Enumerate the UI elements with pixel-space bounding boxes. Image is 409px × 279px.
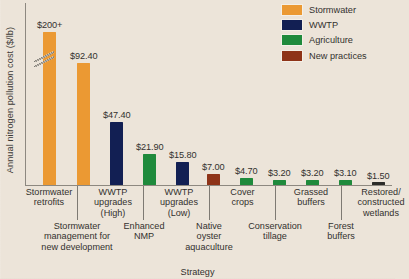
legend-item-agriculture[interactable]: Agriculture bbox=[281, 34, 367, 46]
bar-rect bbox=[176, 162, 189, 185]
legend-item-label: Agriculture bbox=[309, 35, 353, 45]
legend-item-label: Stormwater bbox=[309, 5, 356, 15]
legend-swatch-icon bbox=[281, 19, 303, 31]
bar-grassed-buffers[interactable]: $3.20 bbox=[301, 168, 324, 185]
category-label-forest-buffers: Forest buffers bbox=[317, 221, 365, 242]
legend-swatch-icon bbox=[281, 34, 303, 46]
bar-value-label: $7.00 bbox=[202, 162, 225, 172]
y-axis-title: Annual nitrogen pollution cost ($/lb) bbox=[5, 15, 15, 185]
legend-swatch-icon bbox=[281, 4, 303, 16]
bar-value-label: $1.50 bbox=[367, 171, 390, 181]
tick-stem bbox=[209, 186, 210, 220]
bar-value-label: $92.40 bbox=[70, 51, 98, 61]
bar-cover-crops[interactable]: $4.70 bbox=[235, 166, 258, 185]
bar-wwtp-upgrades-low[interactable]: $15.80 bbox=[169, 150, 197, 185]
category-label-stormwater-new-development: Stormwater management for new developmen… bbox=[30, 221, 124, 252]
bar-rect bbox=[273, 180, 286, 185]
x-axis-category-labels: Stormwater retrofits WWTP upgrades (High… bbox=[25, 186, 392, 279]
bar-rect bbox=[306, 180, 319, 185]
bar-enhanced-nmp[interactable]: $21.90 bbox=[136, 142, 164, 185]
category-label-wwtp-upgrades-high: WWTP upgrades (High) bbox=[77, 187, 149, 218]
bar-rect bbox=[110, 122, 123, 185]
category-label-enhanced-nmp: Enhanced NMP bbox=[115, 221, 173, 242]
category-label-cover-crops: Cover crops bbox=[215, 187, 270, 208]
bar-value-label: $15.80 bbox=[169, 150, 197, 160]
bar-wwtp-upgrades-high[interactable]: $47.40 bbox=[103, 110, 131, 185]
category-label-grassed-buffers: Grassed buffers bbox=[281, 187, 341, 208]
bar-restored-constructed-wetlands[interactable]: $1.50 bbox=[367, 171, 390, 185]
legend: Stormwater WWTP Agriculture New practice… bbox=[281, 4, 367, 62]
bar-value-label: $21.90 bbox=[136, 142, 164, 152]
bar-rect bbox=[240, 178, 253, 185]
bar-stormwater-retrofits[interactable]: $200+ bbox=[37, 20, 62, 185]
tick-stem bbox=[77, 186, 78, 220]
bar-native-oyster-aquaculture[interactable]: $7.00 bbox=[202, 162, 225, 185]
legend-item-wwtp[interactable]: WWTP bbox=[281, 19, 367, 31]
category-label-conservation-tillage: Conservation tillage bbox=[240, 221, 310, 242]
legend-swatch-icon bbox=[281, 50, 303, 62]
category-label-restored-wetlands: Restored/ constructed wetlands bbox=[345, 187, 409, 218]
bar-rect bbox=[143, 154, 156, 185]
bar-conservation-tillage[interactable]: $3.20 bbox=[268, 168, 291, 185]
legend-item-label: WWTP bbox=[309, 20, 338, 30]
bar-forest-buffers[interactable]: $3.10 bbox=[334, 168, 357, 185]
x-axis-title: Strategy bbox=[0, 267, 395, 277]
bar-value-label: $3.20 bbox=[301, 168, 324, 178]
bar-value-label: $47.40 bbox=[103, 110, 131, 120]
legend-item-label: New practices bbox=[309, 51, 367, 61]
bar-rect bbox=[77, 63, 90, 185]
y-axis-line bbox=[25, 3, 26, 186]
bar-value-label: $3.20 bbox=[268, 168, 291, 178]
category-label-wwtp-upgrades-low: WWTP upgrades (Low) bbox=[143, 187, 215, 218]
bar-rect bbox=[372, 182, 385, 185]
tick-stem bbox=[275, 186, 276, 220]
bar-rect bbox=[43, 32, 56, 185]
bar-rect bbox=[207, 174, 220, 185]
legend-item-stormwater[interactable]: Stormwater bbox=[281, 4, 367, 16]
bar-rect bbox=[339, 180, 352, 185]
bar-value-label: $3.10 bbox=[334, 168, 357, 178]
bar-value-label: $4.70 bbox=[235, 166, 258, 176]
tick-stem bbox=[341, 186, 342, 220]
category-label-native-oyster-aquaculture: Native oyster aquaculture bbox=[182, 221, 236, 252]
tick-stem bbox=[143, 186, 144, 220]
bar-value-label: $200+ bbox=[37, 20, 62, 30]
legend-item-new-practices[interactable]: New practices bbox=[281, 50, 367, 62]
bar-stormwater-new-development[interactable]: $92.40 bbox=[70, 51, 98, 185]
